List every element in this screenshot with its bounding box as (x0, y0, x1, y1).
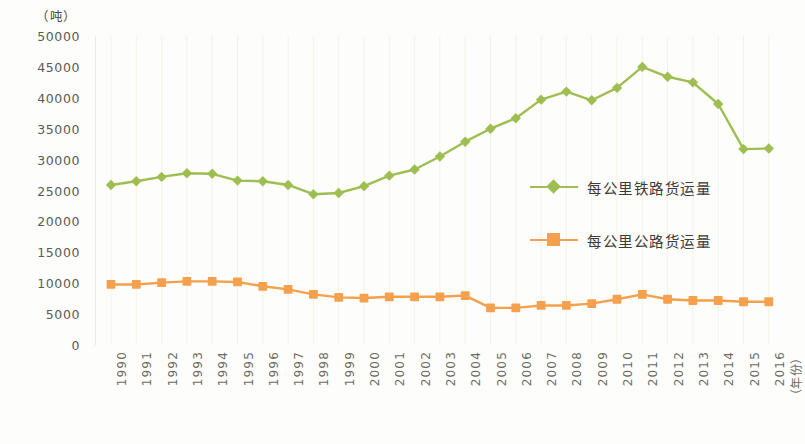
y-axis-tick-label: 35000 (37, 121, 80, 136)
x-axis-tick-label: 2013 (697, 351, 711, 386)
x-axis-tick-labels: 1990199119921993199419951996199719981999… (95, 345, 795, 444)
data-point-marker (132, 280, 141, 289)
data-point-marker (106, 180, 116, 190)
data-point-marker (613, 295, 622, 304)
data-point-marker (208, 277, 217, 286)
data-point-marker (156, 172, 166, 182)
chart-legend: 每公里铁路货运量每公里公路货运量 (530, 176, 711, 282)
data-point-marker (738, 144, 748, 154)
data-point-marker (283, 180, 293, 190)
x-axis-tick-label: 1993 (191, 351, 205, 386)
data-point-marker (511, 304, 520, 313)
y-axis-tick-label: 25000 (37, 183, 80, 198)
legend-entry[interactable]: 每公里公路货运量 (530, 229, 711, 251)
x-axis-tick-label: 2007 (545, 351, 559, 386)
legend-label: 每公里铁路货运量 (587, 177, 711, 198)
y-axis-tick-label: 50000 (37, 29, 80, 44)
x-axis-tick-label: 1991 (140, 351, 154, 386)
data-point-marker (662, 72, 672, 82)
data-point-marker (764, 143, 774, 153)
data-point-marker (334, 188, 344, 198)
data-point-marker (384, 170, 394, 180)
x-axis-tick-label: 2002 (419, 351, 433, 386)
x-axis-tick-label: 1990 (115, 351, 129, 386)
legend-entry[interactable]: 每公里铁路货运量 (530, 176, 711, 198)
data-point-marker (562, 301, 571, 310)
data-point-marker (410, 292, 419, 301)
data-point-marker (233, 278, 242, 287)
data-point-marker (436, 292, 445, 301)
x-axis-tick-label: 2011 (646, 351, 660, 386)
data-point-marker (183, 277, 192, 286)
x-axis-tick-label: 2012 (672, 351, 686, 386)
y-axis-tick-label: 5000 (46, 307, 80, 322)
data-point-marker (460, 136, 470, 146)
data-point-marker (258, 282, 267, 291)
data-point-marker (258, 176, 268, 186)
x-axis-tick-label: 1997 (292, 351, 306, 386)
data-point-marker (409, 164, 419, 174)
x-axis-tick-label: 1999 (343, 351, 357, 386)
data-point-marker (359, 181, 369, 191)
x-axis-tick-label: 2010 (621, 351, 635, 386)
freight-volume-chart: （吨） 500004500040000350003000025000200001… (0, 0, 805, 444)
data-point-marker (461, 291, 470, 300)
data-point-marker (485, 124, 495, 134)
x-axis-tick-label: 2015 (748, 351, 762, 386)
y-axis-tick-labels: 5000045000400003500030000250002000015000… (0, 0, 88, 444)
data-point-marker (714, 296, 723, 305)
x-axis-tick-label: 2005 (495, 351, 509, 386)
y-axis-tick-label: 20000 (37, 214, 80, 229)
x-axis-tick-label: 2014 (722, 351, 736, 386)
data-point-marker (182, 168, 192, 178)
x-axis-tick-label: 2004 (469, 351, 483, 386)
legend-label: 每公里公路货运量 (587, 230, 711, 251)
y-axis-tick-label: 15000 (37, 245, 80, 260)
x-axis-tick-label: 2000 (368, 351, 382, 386)
data-point-marker (107, 280, 116, 289)
data-point-marker (360, 294, 369, 303)
x-axis-tick-label: 1995 (242, 351, 256, 386)
data-point-marker (309, 290, 318, 299)
data-point-marker (587, 95, 597, 105)
y-axis-tick-label: 30000 (37, 152, 80, 167)
diamond-marker-icon (530, 179, 578, 195)
data-point-marker (308, 189, 318, 199)
data-point-marker (131, 176, 141, 186)
data-point-marker (385, 292, 394, 301)
data-point-marker (587, 299, 596, 308)
x-axis-tick-label: 2006 (520, 351, 534, 386)
data-point-marker (334, 293, 343, 302)
data-point-marker (537, 301, 546, 310)
data-point-marker (232, 175, 242, 185)
y-axis-tick-label: 40000 (37, 90, 80, 105)
x-axis-tick-label: 2001 (393, 351, 407, 386)
x-axis-tick-label: 1992 (166, 351, 180, 386)
data-point-marker (739, 297, 748, 306)
square-marker-icon (530, 232, 578, 248)
data-point-marker (663, 295, 672, 304)
data-point-marker (638, 290, 647, 299)
x-axis-tick-label: 2009 (596, 351, 610, 386)
y-axis-tick-label: 0 (71, 338, 80, 353)
data-point-marker (207, 169, 217, 179)
data-point-marker (157, 278, 166, 287)
data-point-marker (435, 151, 445, 161)
x-axis-tick-label: 2003 (444, 351, 458, 386)
data-point-marker (561, 86, 571, 96)
data-point-marker (689, 296, 698, 305)
x-axis-tick-label: 2008 (570, 351, 584, 386)
data-point-marker (486, 304, 495, 313)
x-axis-tick-label: 1996 (267, 351, 281, 386)
data-point-marker (764, 297, 773, 306)
x-axis-tick-label: 1998 (317, 351, 331, 386)
y-axis-tick-label: 10000 (37, 276, 80, 291)
x-axis-title: （年份） (787, 351, 804, 401)
y-axis-tick-label: 45000 (37, 59, 80, 74)
x-axis-tick-label: 1994 (216, 351, 230, 386)
x-axis-tick-label: 2016 (773, 351, 787, 386)
data-point-marker (284, 285, 293, 294)
